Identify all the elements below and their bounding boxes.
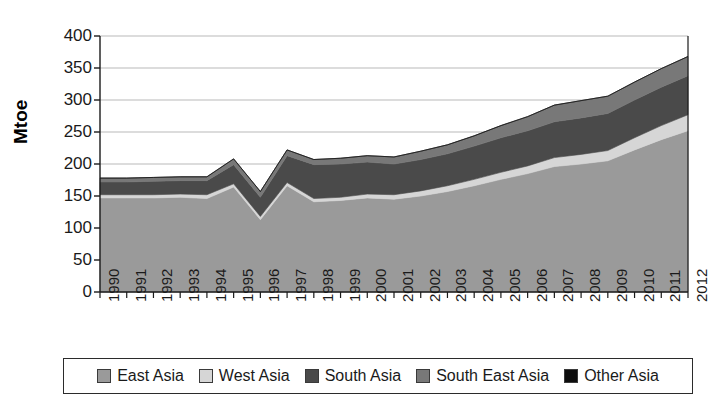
y-tick-label: 400 [64, 27, 92, 44]
x-tick-label: 2006 [534, 269, 549, 302]
x-tick-label: 1991 [133, 269, 148, 302]
y-tick-label: 0 [83, 283, 92, 300]
x-tick-label: 2007 [560, 269, 575, 302]
legend-label: South East Asia [436, 367, 549, 385]
legend-item[interactable]: Other Asia [564, 367, 659, 385]
y-tick-label: 250 [64, 123, 92, 140]
chart-legend: East AsiaWest AsiaSouth AsiaSouth East A… [63, 358, 693, 394]
x-tick-label: 1994 [213, 269, 228, 302]
x-tick-label: 2000 [373, 269, 388, 302]
legend-swatch-icon [416, 369, 430, 383]
x-tick-label: 1998 [320, 269, 335, 302]
legend-item[interactable]: East Asia [97, 367, 184, 385]
legend-item[interactable]: West Asia [199, 367, 290, 385]
plot-area [0, 0, 716, 413]
x-tick-label: 1993 [186, 269, 201, 302]
x-tick-label: 2009 [614, 269, 629, 302]
x-tick-label: 2011 [667, 270, 682, 302]
y-axis-title: Mtoe [10, 114, 32, 144]
legend-item[interactable]: South Asia [305, 367, 402, 385]
y-tick-label: 100 [64, 219, 92, 236]
x-tick-label: 2004 [480, 269, 495, 302]
legend-label: East Asia [117, 367, 184, 385]
x-tick-label: 2012 [694, 269, 709, 302]
x-tick-label: 2005 [507, 269, 522, 302]
y-tick-label: 150 [64, 187, 92, 204]
y-tick-label: 300 [64, 91, 92, 108]
x-tick-label: 1997 [293, 269, 308, 302]
x-tick-label: 1996 [266, 269, 281, 302]
x-tick-label: 2008 [587, 269, 602, 302]
legend-swatch-icon [564, 369, 578, 383]
y-tick-label: 50 [73, 251, 92, 268]
x-tick-label: 2001 [400, 269, 415, 302]
x-tick-label: 1995 [240, 269, 255, 302]
y-tick-label: 200 [64, 155, 92, 172]
legend-label: South Asia [325, 367, 402, 385]
x-tick-label: 1990 [106, 269, 121, 302]
x-tick-label: 2002 [427, 269, 442, 302]
legend-swatch-icon [305, 369, 319, 383]
legend-label: West Asia [219, 367, 290, 385]
legend-item[interactable]: South East Asia [416, 367, 549, 385]
x-tick-label: 2003 [453, 269, 468, 302]
stacked-area-chart: Mtoe 050100150200250300350400 1990199119… [0, 0, 716, 413]
legend-swatch-icon [97, 369, 111, 383]
x-tick-label: 1999 [347, 269, 362, 302]
legend-swatch-icon [199, 369, 213, 383]
y-tick-label: 350 [64, 59, 92, 76]
x-tick-label: 2010 [641, 269, 656, 302]
legend-label: Other Asia [584, 367, 659, 385]
y-axis-tick-labels: 050100150200250300350400 [36, 0, 92, 300]
x-tick-label: 1992 [159, 269, 174, 302]
